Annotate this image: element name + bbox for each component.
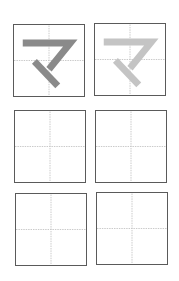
guide-lines xyxy=(96,111,166,182)
model-character-cell xyxy=(13,24,85,97)
guide-and-glyph xyxy=(14,25,84,96)
guide-and-glyph xyxy=(95,24,165,95)
blank-practice-cell[interactable] xyxy=(95,110,167,183)
blank-practice-cell[interactable] xyxy=(15,193,87,266)
stroke-1 xyxy=(23,43,71,69)
guide-lines xyxy=(16,194,86,265)
blank-practice-cell[interactable] xyxy=(96,192,168,265)
blank-practice-cell[interactable] xyxy=(14,110,86,183)
guide-lines xyxy=(97,193,167,264)
guide-lines xyxy=(15,111,85,182)
ma-glyph-icon xyxy=(104,42,152,85)
ma-glyph-icon xyxy=(23,43,71,86)
trace-character-cell xyxy=(94,23,166,96)
stroke-1 xyxy=(104,42,152,68)
